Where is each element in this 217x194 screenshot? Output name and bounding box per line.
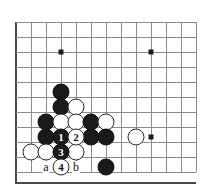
- go-diagram: 1234 ab: [0, 0, 217, 194]
- stone-white-move-4[interactable]: 4: [53, 159, 70, 176]
- move-number: 3: [58, 146, 64, 157]
- stone-black[interactable]: [98, 129, 115, 146]
- move-number: 4: [58, 161, 64, 172]
- stone-white[interactable]: [68, 144, 85, 161]
- stone-white-move-2[interactable]: 2: [68, 129, 85, 146]
- point-label-a: a: [42, 161, 49, 173]
- point-label-b: b: [72, 161, 80, 173]
- go-board[interactable]: 1234 ab: [0, 0, 217, 194]
- stone-white[interactable]: [128, 129, 145, 146]
- stone-black[interactable]: [98, 159, 115, 176]
- move-number: 2: [73, 131, 79, 142]
- move-number: 1: [58, 131, 64, 142]
